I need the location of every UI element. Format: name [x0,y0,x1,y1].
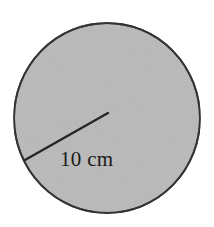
circle-diagram: 10 cm [0,0,214,227]
circle-shape [14,23,200,213]
radius-label: 10 cm [60,147,113,171]
figure-container: 10 cm [0,0,214,227]
